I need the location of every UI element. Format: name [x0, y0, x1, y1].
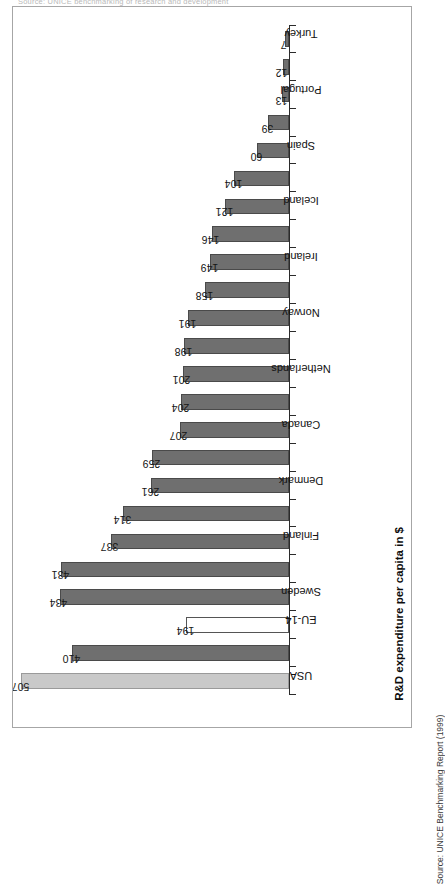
bar-slot: 13 — [21, 81, 289, 109]
bar-slot: 194 — [21, 611, 289, 639]
bar-value-label: 207 — [170, 430, 188, 441]
category-slot — [299, 53, 407, 81]
category-slot: Sweden — [299, 583, 407, 611]
bar-slot: 204 — [21, 388, 289, 416]
bar-value-label: 337 — [101, 541, 119, 552]
axis-tick — [290, 555, 296, 583]
category-slot — [299, 276, 407, 304]
bar-value-label: 149 — [200, 262, 218, 273]
bar-value-label: 201 — [173, 374, 191, 385]
axis-tick — [290, 388, 296, 416]
bar[interactable]: 337 — [111, 534, 289, 550]
bar-value-label: 198 — [175, 346, 193, 357]
bar[interactable]: 60 — [257, 143, 289, 159]
bar-slot: 201 — [21, 360, 289, 388]
category-slot — [299, 444, 407, 472]
bar-value-label: 12 — [276, 67, 288, 78]
bar[interactable]: 261 — [151, 478, 289, 494]
rotated-plot-wrapper: 5074101944344313373142612592072042011981… — [13, 7, 413, 729]
category-slot: Spain — [299, 137, 407, 165]
bar[interactable]: 431 — [61, 562, 289, 578]
axis-tick — [290, 109, 296, 137]
category-label-usa: USA — [290, 670, 313, 681]
axis-tick — [290, 332, 296, 360]
category-slot: Turkey — [299, 25, 407, 53]
bar[interactable]: 104 — [234, 171, 289, 187]
plot-area: 5074101944344313373142612592072042011981… — [13, 7, 413, 729]
bar-value-label: 39 — [262, 123, 274, 134]
axis-tick — [290, 220, 296, 248]
category-slot: Denmark — [299, 472, 407, 500]
plot-rotor: 5074101944344313373142612592072042011981… — [13, 7, 413, 729]
bar[interactable]: 434 — [60, 589, 289, 605]
bar-value-label: 259 — [142, 458, 160, 469]
category-label-finland: Finland — [283, 530, 319, 541]
category-slot: Portugal — [299, 81, 407, 109]
bar[interactable]: 204 — [181, 394, 289, 410]
category-label-netherlands: Netherlands — [271, 363, 330, 374]
axis-tick — [290, 164, 296, 192]
category-label-ireland: Ireland — [284, 251, 318, 262]
bar-slot: 431 — [21, 555, 289, 583]
bar[interactable]: 207 — [180, 422, 289, 438]
axis-tick — [290, 639, 296, 667]
bar[interactable]: 158 — [205, 282, 289, 298]
category-label-sweden: Sweden — [281, 586, 321, 597]
bar-slot: 39 — [21, 109, 289, 137]
category-slot: Norway — [299, 304, 407, 332]
category-slot — [299, 109, 407, 137]
category-slot: Netherlands — [299, 360, 407, 388]
bar-series: 5074101944344313373142612592072042011981… — [21, 25, 289, 695]
bar-value-label: 194 — [177, 625, 195, 636]
bar-value-label: 191 — [178, 318, 196, 329]
axis-tick — [290, 276, 296, 304]
bar-slot: 434 — [21, 583, 289, 611]
bar-slot: 259 — [21, 444, 289, 472]
bar-slot: 337 — [21, 527, 289, 555]
bar-slot: 207 — [21, 416, 289, 444]
bar[interactable]: 410 — [72, 645, 289, 661]
bar-slot: 507 — [21, 667, 289, 695]
bar[interactable]: 314 — [123, 506, 289, 522]
bar-slot: 12 — [21, 53, 289, 81]
bar-value-label: 434 — [50, 597, 68, 608]
bar-value-label: 13 — [275, 95, 287, 106]
category-slot: USA — [299, 667, 407, 695]
bar-slot: 7 — [21, 25, 289, 53]
chart-frame: 5074101944344313373142612592072042011981… — [12, 6, 412, 728]
bar[interactable]: 149 — [210, 254, 289, 270]
bar-value-label: 410 — [63, 653, 81, 664]
category-slot — [299, 220, 407, 248]
source-note: Source: UNICE Benchmarking Report (1999) — [435, 715, 445, 884]
category-slot: EU-14 — [299, 611, 407, 639]
bar-slot: 146 — [21, 220, 289, 248]
bar-value-label: 104 — [224, 178, 242, 189]
bar-value-label: 431 — [51, 569, 69, 580]
category-axis-labels: USAEU-14SwedenFinlandDenmarkCanadaNether… — [299, 25, 407, 695]
bar[interactable]: 39 — [268, 115, 289, 131]
value-axis-title: R&D expenditure per capita in $ — [393, 527, 405, 747]
bar-slot: 191 — [21, 304, 289, 332]
category-slot — [299, 555, 407, 583]
bar-value-label: 7 — [281, 39, 287, 50]
category-slot: Canada — [299, 416, 407, 444]
bar[interactable]: 146 — [212, 226, 289, 242]
bar[interactable]: 198 — [184, 338, 289, 354]
bar[interactable]: 191 — [188, 310, 289, 326]
bar[interactable]: 194 — [186, 617, 289, 633]
category-slot — [299, 388, 407, 416]
bar-value-label: 121 — [215, 206, 233, 217]
bar-slot: 158 — [21, 276, 289, 304]
bar-slot: 261 — [21, 472, 289, 500]
bar-value-label: 146 — [202, 234, 220, 245]
bar[interactable]: 121 — [225, 199, 289, 215]
bar-slot: 121 — [21, 192, 289, 220]
category-slot — [299, 639, 407, 667]
category-label-denmark: Denmark — [279, 475, 324, 486]
bar[interactable]: 259 — [152, 450, 289, 466]
bar-slot: 104 — [21, 164, 289, 192]
axis-tick — [290, 444, 296, 472]
bar-value-label: 158 — [196, 290, 214, 301]
bar[interactable]: 507 — [21, 673, 289, 689]
axis-tick — [290, 53, 296, 81]
